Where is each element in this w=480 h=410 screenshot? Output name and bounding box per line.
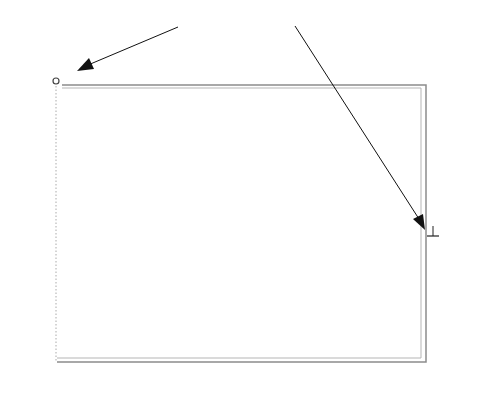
start-point[interactable]	[53, 78, 59, 84]
perpendicular-snap-marker	[427, 226, 439, 236]
drawing-canvas[interactable]	[0, 0, 480, 410]
arrow-left-click	[77, 27, 178, 71]
rectangle-outline	[57, 85, 426, 362]
arrow-perpendicular	[295, 26, 425, 230]
